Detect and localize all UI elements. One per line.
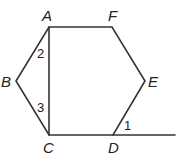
vertex-label-C: C xyxy=(43,139,54,156)
vertex-label-A: A xyxy=(41,7,52,24)
vertex-label-E: E xyxy=(148,73,159,90)
vertex-label-F: F xyxy=(108,7,118,24)
hexagon-diagram: A F E D C B 2 3 1 xyxy=(0,0,185,166)
angle-label-3: 3 xyxy=(37,100,44,115)
vertex-label-B: B xyxy=(1,73,11,90)
angle-label-2: 2 xyxy=(37,46,44,61)
angle-label-1: 1 xyxy=(124,118,131,133)
diagram-canvas: A F E D C B 2 3 1 xyxy=(0,0,185,166)
vertex-label-D: D xyxy=(108,139,119,156)
